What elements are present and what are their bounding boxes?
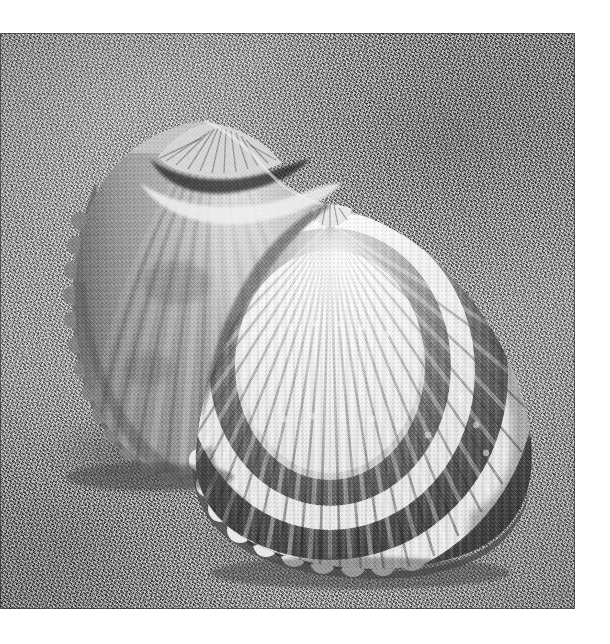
page-root: two seashells resting on sand	[0, 0, 610, 644]
photograph-plate	[0, 33, 575, 609]
shells-illustration	[0, 33, 575, 609]
